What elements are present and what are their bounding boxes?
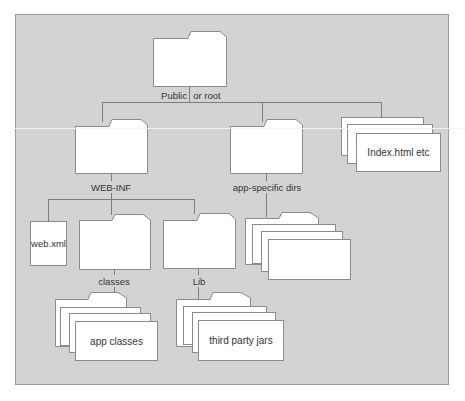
classes-label: classes xyxy=(98,276,130,287)
connector-to-webxml xyxy=(48,199,49,221)
connector-webinf-down xyxy=(111,173,112,181)
root-label-public: Public xyxy=(161,90,187,101)
connector-root-bus xyxy=(102,102,382,103)
webinf-label: WEB-INF xyxy=(91,182,131,193)
root-folder-icon xyxy=(153,31,227,87)
webxml-file: web.xml xyxy=(30,221,67,266)
appspecific-stack-card-4 xyxy=(268,239,351,280)
connector-webinf-bus xyxy=(48,199,195,200)
scan-artifact-line xyxy=(15,128,465,129)
connector-lib-down xyxy=(198,268,199,275)
connector-root-down xyxy=(189,86,190,102)
appclasses-label: app classes xyxy=(90,336,143,347)
lib-label: Lib xyxy=(193,276,206,287)
connector-to-index xyxy=(381,102,382,117)
connector-appspecific-down xyxy=(266,173,267,181)
thirdparty-label: third party jars xyxy=(209,335,272,346)
connector-to-classes xyxy=(111,199,112,215)
index-file-card-3: Index.html etc xyxy=(356,133,441,172)
index-files-label: Index.html etc xyxy=(367,147,429,158)
appclasses-stack-card-4: app classes xyxy=(75,321,158,361)
classes-folder-icon xyxy=(79,214,151,270)
webxml-label: web.xml xyxy=(31,238,66,249)
root-label-or-root: or root xyxy=(193,90,220,101)
appspecific-label: app-specific dirs xyxy=(233,182,302,193)
thirdparty-stack-card-4: third party jars xyxy=(198,320,284,361)
connector-to-lib xyxy=(194,199,195,214)
lib-folder-icon xyxy=(163,213,236,269)
